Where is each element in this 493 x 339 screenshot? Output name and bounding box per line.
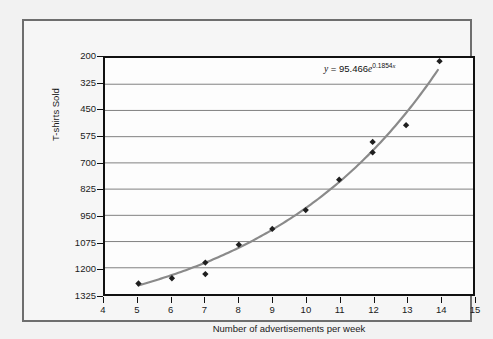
y-axis-tick-label: 575 [52,131,96,141]
x-axis-tickmark [306,297,307,303]
data-point-marker [403,122,409,128]
data-point-marker [369,139,375,145]
x-axis-tickmark [171,297,172,303]
x-axis-tickmark [340,297,341,303]
data-point-marker [202,271,208,277]
x-axis-tickmark [238,297,239,303]
x-axis-tickmark [441,297,442,303]
x-axis-tickmark [103,297,104,303]
data-layer [105,58,473,294]
equation-exponent-variable: x [393,62,396,69]
data-point-marker [303,207,309,213]
x-axis-tickmark [407,297,408,303]
trendline-equation: y = 95.466e0.1854x [324,62,395,74]
x-axis-tickmark [137,297,138,303]
y-axis-tick-label: 325 [52,78,96,88]
y-axis-tick-label: 200 [52,51,96,61]
data-point-marker [336,177,342,183]
equation-coefficient: = 95.466 [328,63,368,74]
y-axis-tick-label: 1075 [52,238,96,248]
y-axis-tick-label: 450 [52,104,96,114]
x-axis-tickmark [272,297,273,303]
equation-exponent-value: 0.1854 [372,62,392,69]
plot-area [103,56,475,296]
y-axis-tick-label: 1200 [52,264,96,274]
data-point-marker [202,259,208,265]
x-axis-tickmark [374,297,375,303]
y-axis-tick-label: 950 [52,211,96,221]
x-axis-title: Number of advertisements per week [103,323,475,334]
y-axis-tick-label: 825 [52,184,96,194]
data-point-marker [436,58,442,64]
x-axis-tickmark [204,297,205,303]
data-point-marker [369,149,375,155]
chart-figure: T-shirts Sold Number of advertisements p… [0,0,493,339]
chart-panel: T-shirts Sold Number of advertisements p… [22,19,472,322]
y-axis-tick-label: 1325 [52,291,96,301]
y-axis-tick-label: 700 [52,158,96,168]
x-axis-tickmark [475,297,476,303]
trendline-curve [138,70,437,285]
x-axis-tick-label: 15 [455,305,493,315]
